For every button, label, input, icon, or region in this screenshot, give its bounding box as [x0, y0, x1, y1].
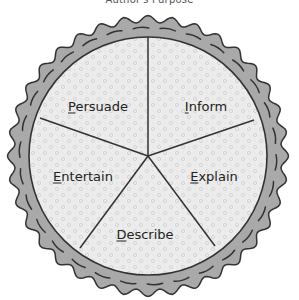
slice-label-describe: Describe — [116, 227, 173, 242]
label-initial: D — [116, 227, 126, 242]
label-rest: ersuade — [75, 99, 128, 114]
slice-label-inform: Inform — [185, 99, 227, 114]
pie-diagram — [0, 0, 299, 300]
label-rest: escribe — [126, 227, 173, 242]
slice-label-explain: Explain — [190, 169, 238, 184]
label-initial: E — [190, 169, 198, 184]
slice-label-entertain: Entertain — [53, 169, 113, 184]
label-initial: E — [53, 169, 61, 184]
label-rest: xplain — [198, 169, 237, 184]
label-rest: ntertain — [61, 169, 113, 184]
slice-label-persuade: Persuade — [68, 99, 128, 114]
label-rest: nform — [189, 99, 228, 114]
